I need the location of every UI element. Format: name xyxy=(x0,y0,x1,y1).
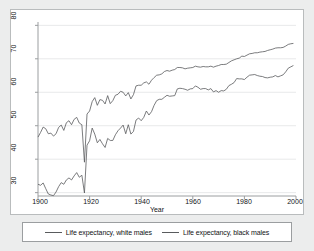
legend-entry-white-males: Life expectancy, white males xyxy=(45,229,152,236)
chart-legend: Life expectancy, white males Life expect… xyxy=(22,222,292,242)
y-tick-label-70: 70 xyxy=(10,34,17,64)
legend-line-swatch-white-males xyxy=(45,232,62,233)
legend-label-white-males: Life expectancy, white males xyxy=(66,229,152,236)
y-tick-label-50: 50 xyxy=(10,100,17,130)
axis-ticks-group xyxy=(35,25,296,199)
x-tick-label-1920: 1920 xyxy=(79,198,103,205)
legend-label-black-males: Life expectancy, black males xyxy=(183,229,269,236)
x-tick-label-2000: 2000 xyxy=(283,198,307,205)
x-axis-title: Year xyxy=(0,206,314,213)
data-series-group xyxy=(38,43,293,195)
series-line-white-males xyxy=(38,43,293,162)
y-tick-label-80: 80 xyxy=(10,1,17,31)
y-tick-label-40: 40 xyxy=(10,133,17,163)
figure-canvas: 80 70 60 50 40 30 1900 1920 1940 1960 19… xyxy=(0,0,314,251)
y-tick-label-60: 60 xyxy=(10,67,17,97)
line-chart-svg xyxy=(10,9,304,215)
legend-entry-black-males: Life expectancy, black males xyxy=(162,229,269,236)
x-tick-label-1960: 1960 xyxy=(181,198,205,205)
y-tick-label-30: 30 xyxy=(10,166,17,196)
gridlines-group xyxy=(38,25,296,192)
series-line-black-males xyxy=(38,66,293,196)
x-tick-label-1940: 1940 xyxy=(130,198,154,205)
x-tick-label-1900: 1900 xyxy=(28,198,52,205)
axis-lines-group xyxy=(38,22,296,196)
legend-line-swatch-black-males xyxy=(162,232,179,233)
x-tick-label-1980: 1980 xyxy=(232,198,256,205)
plot-region xyxy=(10,9,304,215)
